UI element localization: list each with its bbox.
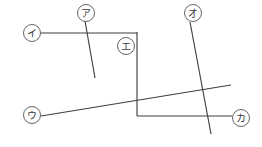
diagram-canvas: ア イ ウ エ オ カ (0, 0, 262, 147)
label-e-text: エ (121, 41, 131, 52)
label-ka: カ (233, 110, 250, 127)
long-shallow-diagonal-line (41, 85, 231, 116)
line-segments-group (41, 21, 232, 134)
label-a: ア (78, 5, 95, 22)
label-a-text: ア (81, 8, 91, 19)
label-e: エ (118, 38, 135, 55)
label-u: ウ (24, 107, 41, 124)
long-steep-diagonal-line (190, 22, 211, 134)
line-diagram-figure: ア イ ウ エ オ カ (0, 0, 262, 147)
short-steep-diagonal-line (85, 21, 95, 78)
label-u-text: ウ (27, 110, 37, 121)
label-o-text: オ (188, 8, 198, 19)
label-i: イ (24, 25, 41, 42)
label-o: オ (185, 5, 202, 22)
label-ka-text: カ (236, 113, 246, 124)
label-i-text: イ (27, 28, 37, 39)
